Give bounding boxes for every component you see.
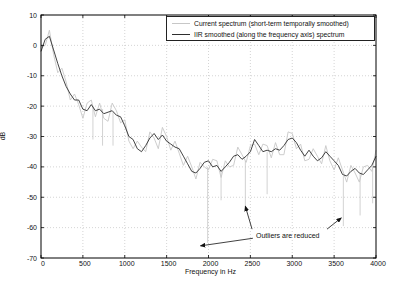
y-tick-label: -30 <box>27 133 37 140</box>
plot-svg: 05001000150020002500300035004000100-10-2… <box>0 0 395 295</box>
legend-entry-iir: IIR smoothed (along the frequency axis) … <box>167 29 374 40</box>
x-tick-label: 2000 <box>203 260 219 267</box>
x-tick-label: 3500 <box>328 260 344 267</box>
y-axis-label: dB <box>0 127 13 145</box>
annotation-arrow <box>201 238 253 246</box>
legend-line-sample-iir <box>172 34 190 35</box>
legend: Current spectrum (short-term temporally … <box>166 16 375 41</box>
annotation-arrow <box>245 206 252 229</box>
x-tick-label: 500 <box>79 260 91 267</box>
y-tick-label: 0 <box>33 42 37 49</box>
y-tick-label: -60 <box>27 224 37 231</box>
x-tick-label: 3000 <box>286 260 302 267</box>
x-tick-label: 0 <box>41 260 45 267</box>
y-tick-label: -20 <box>27 103 37 110</box>
legend-label-iir: IIR smoothed (along the frequency axis) … <box>194 31 344 38</box>
x-tick-label: 1000 <box>119 260 135 267</box>
legend-entry-current: Current spectrum (short-term temporally … <box>167 18 374 29</box>
y-tick-label: -10 <box>27 72 37 79</box>
y-tick-label: 10 <box>29 12 37 19</box>
x-tick-label: 2500 <box>245 260 261 267</box>
x-tick-label: 1500 <box>161 260 177 267</box>
annotation-outliers-text: Outliers are reduced <box>256 232 319 239</box>
x-tick-label: 4000 <box>370 260 386 267</box>
y-tick-label: -50 <box>27 194 37 201</box>
y-tick-label: -40 <box>27 163 37 170</box>
legend-line-sample-current <box>172 23 190 24</box>
y-tick-label: -70 <box>27 255 37 262</box>
x-axis-label: Frequency in Hz <box>0 268 395 275</box>
figure: 05001000150020002500300035004000100-10-2… <box>0 0 395 295</box>
legend-label-current: Current spectrum (short-term temporally … <box>194 20 349 27</box>
